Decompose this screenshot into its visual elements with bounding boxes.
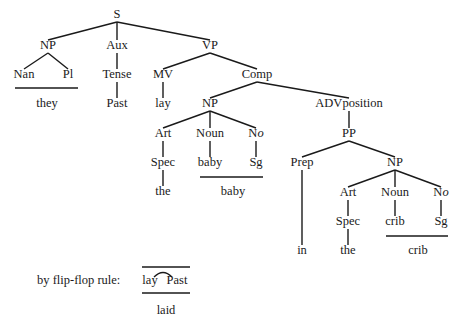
tree-node-prep: Prep [291,155,314,169]
tree-node-art2: Art [340,185,357,199]
tree-edge [117,22,210,40]
tree-node-past: Past [107,96,128,110]
tree-node-art1: Art [155,126,172,140]
tree-node-tense: Tense [103,67,132,81]
tree-node-the1: the [155,184,171,198]
tree-node-they: they [36,96,58,110]
tree-edges [24,22,441,245]
tree-node-pp: PP [342,126,356,140]
tree-node-nan: Nan [14,67,36,81]
rule-result-laid: laid [157,303,176,317]
tree-node-pl: Pl [63,67,74,81]
tree-node-sg2: Sg [434,214,448,228]
flip-flop-rule: by flip-flop rule: lay Past laid [37,267,190,317]
syntax-tree-diagram: SNPAuxVPNanPlTenseMVComptheyPastlayNPADV… [0,0,462,324]
tree-node-np1: NP [40,38,56,52]
tree-node-no1: No [248,126,263,140]
tree-node-mv: MV [153,67,173,81]
tree-node-sg1: Sg [249,155,263,169]
rule-label: by flip-flop rule: [37,273,120,287]
tree-node-advposition: ADVposition [315,96,383,110]
tree-node-spec1: Spec [151,155,176,169]
tree-node-comp: Comp [242,67,273,81]
tree-node-vp: VP [202,38,218,52]
rule-word-past: Past [167,273,188,287]
tree-node-crib2: crib [408,243,427,257]
tree-node-noun2: Noun [381,185,410,199]
tree-node-baby1: baby [198,155,223,169]
tree-node-spec2: Spec [336,214,361,228]
tree-node-noun1: Noun [196,126,225,140]
tree-node-in: in [297,243,307,257]
tree-nodes: SNPAuxVPNanPlTenseMVComptheyPastlayNPADV… [14,7,449,257]
tree-node-np3: NP [387,155,403,169]
tree-node-baby2: baby [221,184,246,198]
morpheme-underlines [15,88,448,236]
tree-node-aux: Aux [106,38,128,52]
tree-node-s: S [114,7,121,21]
tree-node-np2: NP [202,96,218,110]
tree-node-lay: lay [155,96,171,110]
tree-node-no2: No [433,185,448,199]
tree-node-crib1: crib [385,214,404,228]
tree-node-the2: the [340,243,356,257]
